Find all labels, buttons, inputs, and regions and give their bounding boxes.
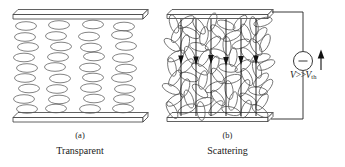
panel-a-bottom-electrode — [13, 113, 148, 123]
figure-liquid-crystal-states: V>>Vth (a) Transparent (b) Scattering — [0, 0, 345, 167]
panel-a-group — [13, 10, 148, 123]
field-arrow — [208, 55, 214, 64]
voltage-source-symbol — [294, 52, 313, 71]
panel-b-caption: Scattering — [160, 145, 295, 157]
voltage-relation: >> — [296, 70, 306, 80]
figure-artwork — [0, 0, 345, 167]
panel-b-letter: (b) — [160, 130, 295, 140]
panel-a-caption: Transparent — [0, 145, 160, 157]
panel-a-top-electrode — [13, 10, 148, 20]
current-arrow-icon — [318, 50, 325, 71]
panel-a-letter: (a) — [0, 130, 160, 140]
circuit-wire-top — [272, 12, 303, 51]
threshold-subscript: th — [311, 73, 316, 80]
panel-b-molecules — [161, 12, 277, 121]
field-arrow — [223, 57, 229, 66]
panel-b-top-electrode — [167, 10, 273, 19]
panel-b-group — [161, 10, 277, 122]
panel-a-molecules — [14, 20, 137, 113]
voltage-label: V>>Vth — [290, 70, 316, 80]
